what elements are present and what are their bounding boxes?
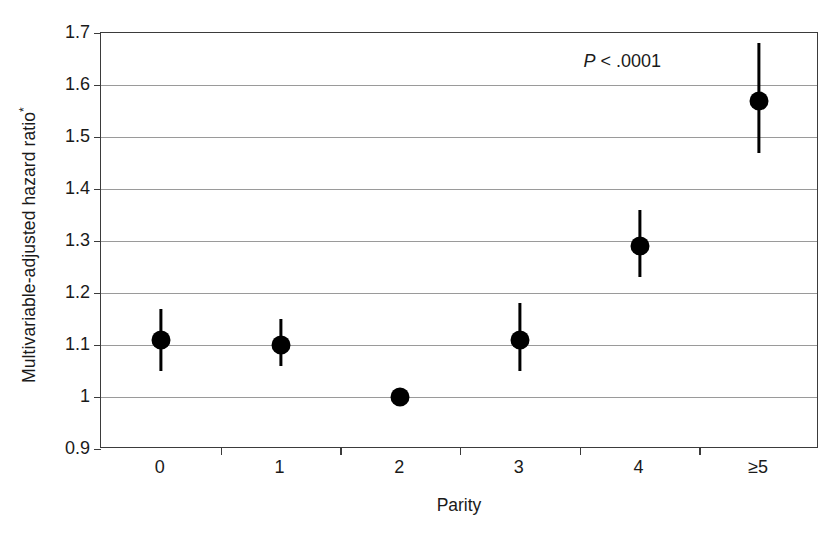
data-point-marker xyxy=(510,330,529,349)
x-axis-tick-mark xyxy=(580,447,581,455)
y-axis-tick-label: 1.7 xyxy=(34,23,90,41)
x-axis-tick-label: 0 xyxy=(120,456,200,478)
gridline xyxy=(101,241,817,242)
x-axis-title: Parity xyxy=(100,494,818,516)
y-axis-tick-label: 1.1 xyxy=(34,335,90,353)
y-axis-tick-mark xyxy=(94,33,101,34)
y-axis-tick-mark xyxy=(94,293,101,294)
x-axis-tick-mark xyxy=(699,447,700,455)
x-axis-tick-label: ≥5 xyxy=(718,456,798,478)
y-axis-tick-label: 0.9 xyxy=(34,439,90,457)
gridline xyxy=(101,189,817,190)
x-axis-tick-mark xyxy=(340,447,341,455)
y-axis-tick-mark xyxy=(94,137,101,138)
x-axis-tick-label: 4 xyxy=(599,456,679,478)
y-axis-tick-label: 1 xyxy=(34,387,90,405)
data-point-marker xyxy=(151,330,170,349)
p-value-annotation: P < .0001 xyxy=(584,50,662,72)
y-axis-tick-mark xyxy=(94,241,101,242)
y-axis-tick-label: 1.2 xyxy=(34,283,90,301)
y-axis-tick-label: 1.4 xyxy=(34,179,90,197)
x-axis-tick-label: 1 xyxy=(240,456,320,478)
x-axis-tick-mark xyxy=(221,447,222,455)
x-axis-tick-labels: 01234≥5 xyxy=(100,456,818,484)
y-axis-title-footnote-marker: * xyxy=(17,107,31,112)
data-point-marker xyxy=(630,237,649,256)
data-point-marker xyxy=(271,336,290,355)
gridline xyxy=(101,85,817,86)
gridline xyxy=(101,345,817,346)
y-axis-tick-label: 1.5 xyxy=(34,127,90,145)
y-axis-tick-mark xyxy=(94,345,101,346)
y-axis-tick-mark xyxy=(94,189,101,190)
p-value-symbol: P xyxy=(584,51,596,71)
gridline xyxy=(101,137,817,138)
x-axis-tick-mark xyxy=(460,447,461,455)
gridline xyxy=(101,397,817,398)
gridline xyxy=(101,293,817,294)
x-axis-tick-label: 3 xyxy=(479,456,559,478)
p-value-text: < .0001 xyxy=(596,51,662,71)
y-axis-tick-label: 1.6 xyxy=(34,75,90,93)
y-axis-tick-labels: 0.911.11.21.31.41.51.61.7 xyxy=(34,0,90,539)
x-axis-tick-label: 2 xyxy=(359,456,439,478)
plot-area xyxy=(100,32,818,448)
data-point-marker xyxy=(750,91,769,110)
data-point-marker xyxy=(391,388,410,407)
y-axis-tick-mark xyxy=(94,397,101,398)
y-axis-tick-label: 1.3 xyxy=(34,231,90,249)
hazard-ratio-figure: Multivariable-adjusted hazard ratio* 0.9… xyxy=(0,0,837,539)
y-axis-tick-mark xyxy=(94,85,101,86)
y-axis-tick-mark xyxy=(94,449,101,450)
